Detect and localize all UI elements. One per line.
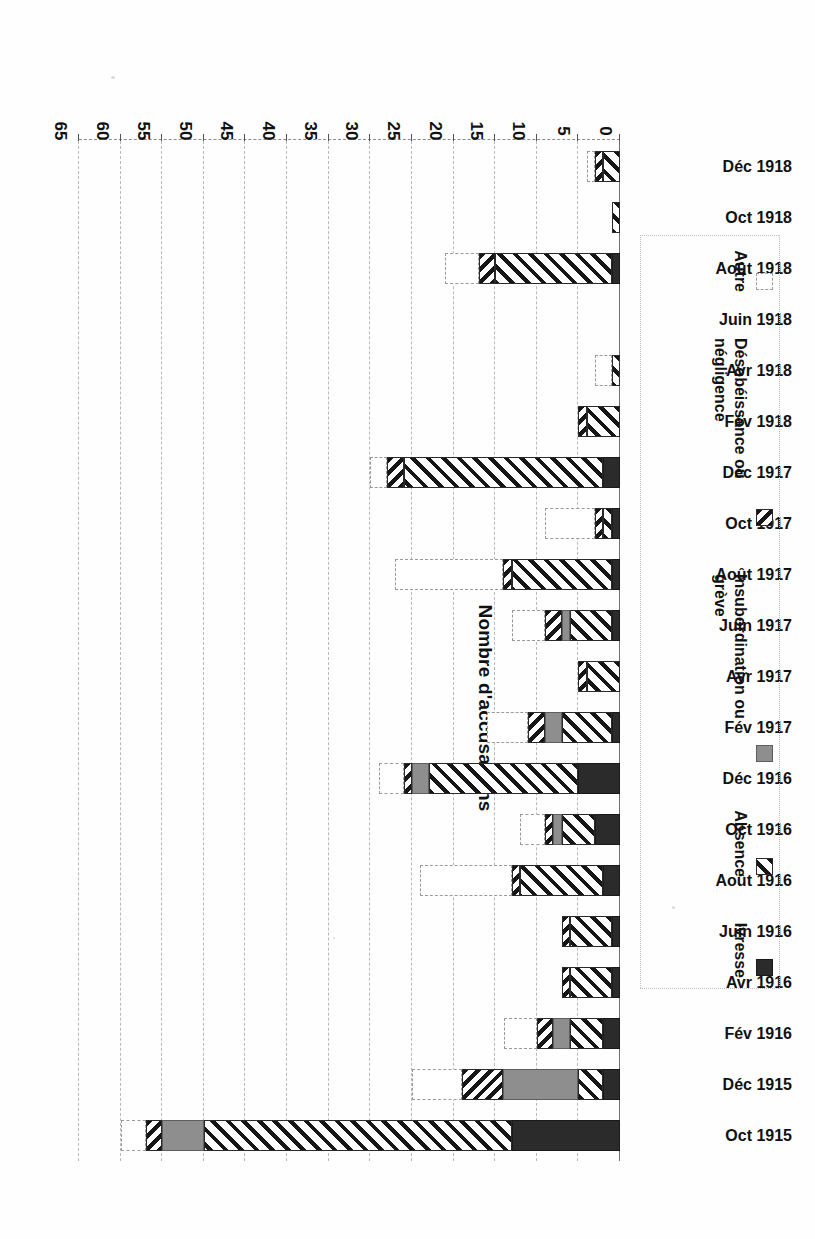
legend-item-insubordination[interactable]: Insubordination ou grève: [647, 574, 773, 764]
bar-segment-désobéissance: [545, 814, 553, 845]
category-label: Fév 1916: [632, 1026, 792, 1042]
axis-tick-label: 25: [382, 122, 402, 141]
bar-segment-absence: [612, 355, 620, 386]
bar-segment-désobéissance: [512, 865, 520, 896]
bar-segment-autre: [595, 355, 612, 386]
bar-segment-insubordination: [503, 1069, 578, 1100]
bar-segment-absence: [570, 610, 612, 641]
stacked-bar[interactable]: [578, 661, 620, 692]
stacked-bar[interactable]: [487, 712, 620, 743]
stacked-bar[interactable]: [612, 202, 620, 233]
bar-row: Oct 1916: [79, 814, 620, 845]
axis-tick-mark: [494, 134, 495, 141]
stacked-bar[interactable]: [545, 508, 620, 539]
bar-segment-autre: [412, 1069, 462, 1100]
stacked-bar[interactable]: [370, 457, 620, 488]
axis-tick-label: 35: [299, 122, 319, 141]
bar-segment-absence: [612, 202, 620, 233]
axis-tick-label: 40: [258, 122, 278, 141]
bar-segment-désobéissance: [479, 253, 496, 284]
stacked-bar[interactable]: [587, 151, 620, 182]
axis-tick-mark: [120, 134, 121, 141]
legend-label: Insubordination ou grève: [710, 574, 750, 764]
bar-segment-ivresse: [603, 457, 620, 488]
bar-row: Août 1917: [79, 559, 620, 590]
legend-item-desobeissance[interactable]: Désobéissance ou négligence: [647, 338, 773, 528]
bar-segment-insubordination: [412, 763, 429, 794]
legend-label: Autre: [730, 250, 750, 292]
bar-segment-ivresse: [595, 814, 620, 845]
category-label: Déc 1918: [632, 159, 792, 175]
bar-row: Oct 1917: [79, 508, 620, 539]
bar-segment-autre: [504, 1018, 537, 1049]
bar-segment-absence: [570, 916, 612, 947]
stacked-bar[interactable]: [578, 406, 620, 437]
bar-segment-désobéissance: [562, 967, 570, 998]
stacked-bar[interactable]: [379, 763, 620, 794]
axis-tick-mark: [328, 134, 329, 141]
bar-segment-absence: [520, 865, 603, 896]
bar-segment-autre: [487, 712, 529, 743]
stacked-bar[interactable]: [562, 916, 620, 947]
bar-segment-absence: [578, 1069, 603, 1100]
legend-item-autre[interactable]: Autre: [647, 250, 773, 292]
bar-segment-absence: [587, 406, 620, 437]
bar-segment-absence: [429, 763, 579, 794]
bar-segment-désobéissance: [146, 1120, 163, 1151]
bar-row: Juin 1916: [79, 916, 620, 947]
bar-segment-ivresse: [512, 1120, 620, 1151]
bar-segment-autre: [445, 253, 478, 284]
stacked-bar[interactable]: [520, 814, 620, 845]
stacked-bar[interactable]: [445, 253, 620, 284]
stacked-bar[interactable]: [412, 1069, 620, 1100]
axis-tick-label: 0: [595, 126, 615, 135]
bar-segment-désobéissance: [462, 1069, 504, 1100]
bar-segment-autre: [395, 559, 503, 590]
bar-row: Avr 1917: [79, 661, 620, 692]
bar-segment-ivresse: [603, 1069, 620, 1100]
bar-row: Oct 1915: [79, 1120, 620, 1151]
bar-segment-ivresse: [603, 1018, 620, 1049]
axis-tick-mark: [203, 134, 204, 141]
bar-segment-absence: [587, 661, 620, 692]
bar-row: Juin 1918: [79, 304, 620, 335]
legend-swatch-icon: [756, 858, 773, 875]
legend-item-ivresse[interactable]: Ivresse: [647, 923, 773, 978]
stacked-bar[interactable]: [504, 1018, 620, 1049]
bar-segment-ivresse: [612, 967, 620, 998]
bar-row: Oct 1918: [79, 202, 620, 233]
bar-segment-absence: [404, 457, 604, 488]
stacked-bar[interactable]: [420, 865, 620, 896]
bar-segment-désobéissance: [528, 712, 545, 743]
bar-segment-désobéissance: [578, 661, 586, 692]
bar-segment-ivresse: [612, 916, 620, 947]
bar-segment-absence: [603, 151, 620, 182]
legend-label: Ivresse: [730, 923, 750, 978]
bar-segment-absence: [603, 508, 611, 539]
bar-segment-désobéissance: [595, 151, 603, 182]
stacked-bar[interactable]: [562, 967, 620, 998]
bar-segment-insubordination: [553, 814, 561, 845]
axis-tick-label: 15: [466, 122, 486, 141]
bar-segment-absence: [204, 1120, 512, 1151]
stacked-bar[interactable]: [512, 610, 620, 641]
bar-segment-insubordination: [553, 1018, 570, 1049]
bar-row: Août 1918: [79, 253, 620, 284]
bar-segment-autre: [545, 508, 595, 539]
bar-segment-désobéissance: [545, 610, 562, 641]
axis-tick-label: 50: [174, 122, 194, 141]
category-label: Oct 1918: [632, 210, 792, 226]
bar-segment-ivresse: [612, 508, 620, 539]
stacked-bar[interactable]: [121, 1120, 620, 1151]
legend-item-absence[interactable]: Absence: [647, 810, 773, 877]
bar-row: Avr 1916: [79, 967, 620, 998]
legend-swatch-icon: [756, 959, 773, 976]
axis-tick-label: 45: [216, 122, 236, 141]
stacked-bar[interactable]: [595, 355, 620, 386]
bar-segment-autre: [587, 151, 595, 182]
bar-segment-absence: [562, 814, 595, 845]
axis-tick-label: 5: [554, 126, 574, 135]
plot-area: Oct 1915Déc 1915Fév 1916Avr 1916Juin 191…: [79, 141, 620, 1161]
bar-row: Déc 1918: [79, 151, 620, 182]
stacked-bar[interactable]: [395, 559, 620, 590]
